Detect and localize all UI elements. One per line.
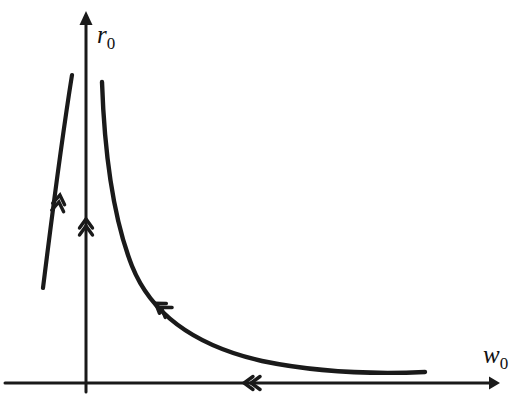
y-axis-arrowhead-icon: [80, 11, 93, 25]
figure-canvas: [0, 0, 520, 412]
x-axis-label-subscript: 0: [500, 354, 509, 373]
left-trajectory-path: [43, 75, 72, 288]
y-axis-label-subscript: 0: [107, 34, 116, 53]
x-axis-label-var: w: [483, 341, 500, 368]
phase-plane-figure: r0 w0: [0, 0, 520, 412]
hyperbola-trajectory-curve: [102, 82, 425, 373]
left-trajectory-curve: [43, 75, 72, 288]
y-axis: [80, 11, 93, 392]
y-axis-label-var: r: [97, 21, 107, 48]
x-axis-label: w0: [483, 342, 508, 372]
hyperbola-path: [102, 82, 425, 373]
y-axis-label: r0: [97, 22, 115, 52]
x-axis-arrowhead-icon: [489, 377, 500, 390]
